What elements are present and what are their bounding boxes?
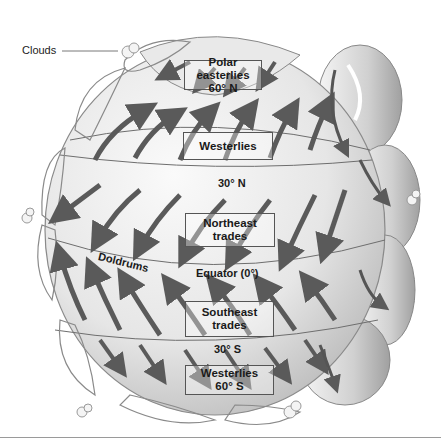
- clouds-callout: Clouds: [22, 44, 56, 56]
- latitude-30s: 30° S: [214, 343, 241, 355]
- bottom-divider: [0, 437, 441, 438]
- global-wind-diagram: Clouds Polar easterlies 60° N Westerlies…: [0, 0, 441, 444]
- equator-label: Equator (0°): [196, 267, 258, 279]
- label-polar-easterlies-north: Polar easterlies 60° N: [184, 60, 262, 90]
- label-westerlies-south: Westerlies 60° S: [185, 365, 274, 395]
- label-westerlies-north: Westerlies: [183, 132, 273, 160]
- label-northeast-trades: Northeast trades: [185, 213, 275, 247]
- latitude-30n: 30° N: [218, 177, 246, 189]
- label-southeast-trades: Southeast trades: [185, 301, 274, 337]
